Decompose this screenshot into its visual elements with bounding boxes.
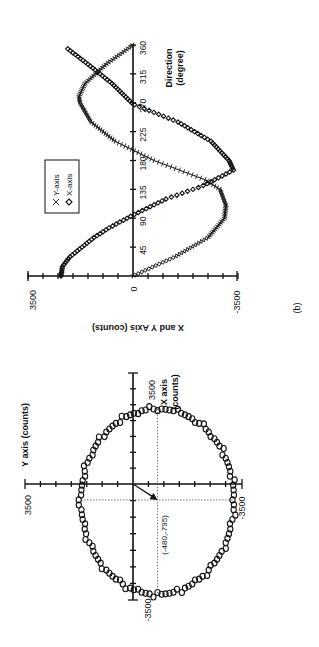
b-count-tick-neg: -3500 <box>232 290 242 313</box>
chart-a-axes <box>25 373 242 600</box>
panel-b-label: (b) <box>292 302 302 313</box>
a-ytick-neg: -3500 <box>237 496 247 519</box>
b-count-tick-zero: 0 <box>129 286 139 291</box>
a-xlabel-line1: X axis <box>159 379 169 405</box>
svg-text:135: 135 <box>138 185 148 199</box>
a-xtick-neg: -3500 <box>143 598 153 621</box>
svg-text:315: 315 <box>138 70 148 84</box>
svg-text:90: 90 <box>138 216 148 226</box>
a-ytick-pos: 3500 <box>23 495 33 515</box>
svg-text:45: 45 <box>138 245 148 255</box>
b-count-tick-pos: 3500 <box>28 290 38 310</box>
b-ylabel: X and Y Axis (counts) <box>92 323 184 333</box>
series-ellipse-points <box>76 404 238 600</box>
figure-svg: 4590135180225270315360 3500 0 -3500 X an… <box>0 0 319 647</box>
chart-a-ellipse: Y axis (counts) 3500 -3500 3500 -3500 X … <box>20 373 247 622</box>
a-xtick-pos: 3500 <box>147 380 157 400</box>
a-ylabel: Y axis (counts) <box>20 403 30 467</box>
svg-text:225: 225 <box>138 127 148 141</box>
legend-label-x-axis: X-axis <box>65 174 74 196</box>
b-xlabel-line2: (degree) <box>175 50 185 86</box>
b-xlabel-line1: Direction <box>164 48 174 87</box>
chart-b-direction-counts: 4590135180225270315360 3500 0 -3500 X an… <box>28 41 302 333</box>
legend-label-y-axis: Y-axis <box>52 175 61 197</box>
series-y-axis-crosses <box>77 43 229 279</box>
a-center-annotation: (-480,-795) <box>160 515 169 555</box>
figure-canvas: 4590135180225270315360 3500 0 -3500 X an… <box>0 0 319 647</box>
svg-text:360: 360 <box>138 41 148 55</box>
svg-text:180: 180 <box>138 156 148 170</box>
a-xlabel-line2: (counts) <box>170 374 180 410</box>
chart-b-legend: Y-axis X-axis <box>45 160 79 213</box>
